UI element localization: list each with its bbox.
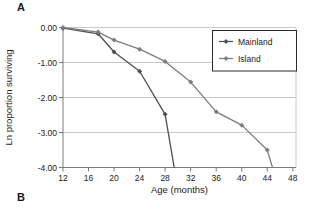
x-tick-label: 40: [237, 173, 247, 183]
y-tick-label: -3.00: [38, 128, 58, 138]
mainland-series-line: [63, 28, 176, 178]
x-tick-label: 36: [211, 173, 221, 183]
x-tick-label: 16: [84, 173, 94, 183]
legend: MainlandIsland: [213, 31, 297, 72]
survivorship-figure: A 0.00-1.00-2.00-3.00-4.0012162024283236…: [0, 0, 312, 210]
y-tick-label: -2.00: [38, 93, 58, 103]
x-tick-label: 20: [109, 173, 119, 183]
legend-label: Island: [238, 54, 261, 64]
x-tick-label: 48: [288, 173, 298, 183]
y-tick-label: -1.00: [38, 58, 58, 68]
legend-label: Mainland: [238, 37, 273, 47]
x-tick-label: 32: [186, 173, 196, 183]
mainland-line-group: [63, 28, 176, 178]
island-marker: [61, 25, 66, 30]
mainland-series: [61, 26, 176, 178]
panel-b-label: B: [17, 191, 25, 203]
x-tick-label: 24: [135, 173, 145, 183]
island-marker: [137, 47, 142, 52]
x-tick-label: 44: [263, 173, 273, 183]
y-axis-title: Ln proportion surviving: [3, 49, 14, 145]
y-tick-label: -4.00: [38, 163, 58, 173]
island-marker: [112, 38, 117, 43]
x-tick-label: 12: [58, 173, 68, 183]
x-axis-title: Age (months): [151, 184, 208, 195]
x-tick-label: 28: [160, 173, 170, 183]
survival-line-chart: 0.00-1.00-2.00-3.00-4.001216202428323640…: [0, 0, 312, 210]
y-tick-label: 0.00: [40, 23, 57, 33]
